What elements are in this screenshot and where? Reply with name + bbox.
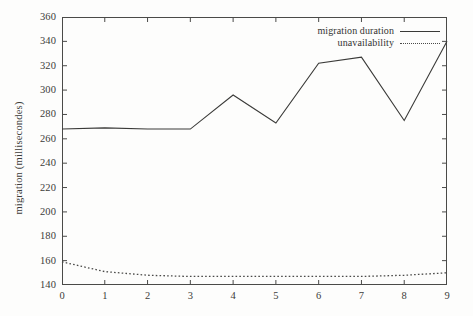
legend-entry-label: migration duration (317, 25, 400, 37)
y-axis-tick-label: 160 (26, 256, 56, 267)
x-axis-tick-label: 8 (392, 291, 416, 302)
series-line (62, 41, 447, 129)
y-axis-tick-label: 260 (26, 134, 56, 145)
axis-tick-marks (62, 17, 447, 285)
x-axis-tick-label: 0 (50, 291, 74, 302)
legend-entry-label: unavailability (338, 37, 400, 49)
legend-line-sample (400, 39, 440, 47)
x-axis-tick-label: 2 (136, 291, 160, 302)
legend-line-sample (400, 27, 440, 35)
y-axis-tick-label: 280 (26, 109, 56, 120)
x-axis-tick-labels: 0123456789 (0, 291, 473, 307)
y-axis-tick-label: 180 (26, 231, 56, 242)
plot-canvas (62, 17, 447, 285)
y-axis-tick-label: 220 (26, 183, 56, 194)
y-axis-tick-label: 320 (26, 61, 56, 72)
x-axis-tick-label: 7 (349, 291, 373, 302)
legend-entry: unavailability (258, 37, 440, 49)
chart-legend: migration durationunavailability (258, 25, 440, 49)
y-axis-tick-label: 340 (26, 36, 56, 47)
y-axis-tick-label: 300 (26, 85, 56, 96)
y-axis-tick-labels: 140160180200220240260280300320340360 (22, 0, 56, 316)
x-axis-tick-label: 5 (264, 291, 288, 302)
y-axis-tick-label: 200 (26, 207, 56, 218)
x-axis-tick-label: 9 (435, 291, 459, 302)
y-axis-tick-label: 240 (26, 158, 56, 169)
y-axis-tick-label: 360 (26, 12, 56, 23)
x-axis-tick-label: 4 (221, 291, 245, 302)
series-line (62, 262, 447, 277)
chart-figure: migration (millisecondes) 14016018020022… (0, 0, 473, 316)
x-axis-tick-label: 1 (93, 291, 117, 302)
legend-entry: migration duration (258, 25, 440, 37)
y-axis-tick-label: 140 (26, 280, 56, 291)
x-axis-tick-label: 6 (307, 291, 331, 302)
x-axis-tick-label: 3 (178, 291, 202, 302)
data-series-layer (62, 41, 447, 276)
scanned-page-background: migration (millisecondes) 14016018020022… (0, 0, 473, 316)
